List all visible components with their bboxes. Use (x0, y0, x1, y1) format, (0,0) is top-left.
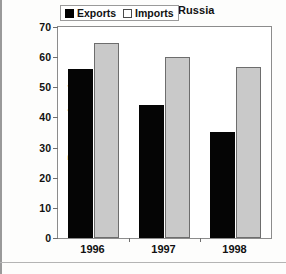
x-axis-label: 1997 (151, 243, 175, 255)
black-square-icon (65, 9, 74, 18)
x-axis-tick (200, 238, 201, 242)
chart-page: Ukraine: Trade with Russia Percent of to… (0, 0, 286, 274)
chart-legend: Exports Imports (60, 5, 179, 21)
y-axis-label: 70 (39, 21, 51, 33)
bar-group (129, 27, 200, 238)
gray-square-icon (123, 9, 132, 18)
legend-label-imports: Imports (135, 7, 174, 19)
bar-1998-exports (210, 132, 235, 238)
bar-group (58, 27, 129, 238)
legend-label-exports: Exports (77, 7, 116, 19)
y-axis-label: 20 (39, 172, 51, 184)
bar-1998-imports (236, 67, 261, 238)
y-axis-label: 50 (39, 81, 51, 93)
scan-edge-bottom (0, 262, 286, 263)
bar-1996-imports (94, 43, 119, 238)
y-axis-label: 40 (39, 111, 51, 123)
x-axis-label: 1998 (222, 243, 246, 255)
plot-area: Percent of total. 010203040506070 (57, 26, 272, 239)
y-axis-tick (53, 238, 58, 239)
bar-1996-exports (68, 69, 93, 238)
x-axis-tick (129, 238, 130, 242)
legend-item-exports: Exports (65, 7, 116, 19)
y-axis-label: 30 (39, 142, 51, 154)
legend-item-imports: Imports (123, 7, 174, 19)
y-axis-label: 60 (39, 51, 51, 63)
scan-edge-left (0, 0, 2, 274)
y-axis-label: 10 (39, 202, 51, 214)
x-axis-label: 1996 (80, 243, 104, 255)
bar-group (200, 27, 271, 238)
caption-strip (34, 266, 234, 273)
y-axis-label: 0 (45, 232, 51, 244)
bar-1997-imports (165, 57, 190, 238)
bar-1997-exports (139, 105, 164, 238)
